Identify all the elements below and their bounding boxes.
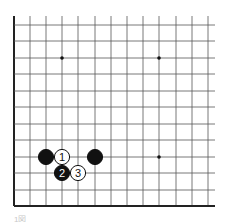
star-point xyxy=(157,56,161,60)
black-stone: 2 xyxy=(54,165,69,180)
black-stone xyxy=(87,149,102,164)
go-board-diagram: 123 xyxy=(0,0,228,222)
white-stone: 1 xyxy=(54,149,69,164)
stones: 123 xyxy=(38,149,102,180)
black-stone xyxy=(38,149,53,164)
move-number: 1 xyxy=(59,151,65,163)
star-point xyxy=(60,56,64,60)
star-points xyxy=(60,56,161,159)
white-stone: 3 xyxy=(70,165,85,180)
move-number: 2 xyxy=(59,167,65,179)
star-point xyxy=(157,155,161,159)
move-number: 3 xyxy=(75,167,81,179)
board-grid xyxy=(14,16,215,206)
diagram-caption: 1図 xyxy=(14,213,26,222)
